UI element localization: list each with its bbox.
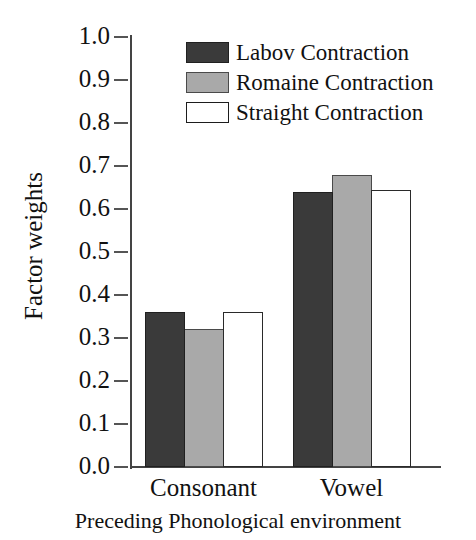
legend-item: Labov Contraction xyxy=(186,38,456,66)
y-axis-tick-label: 0.4 xyxy=(34,281,110,306)
y-axis-tick xyxy=(114,466,128,468)
y-axis-tick-label: 0.0 xyxy=(34,453,110,478)
y-axis-tick xyxy=(114,423,128,425)
y-axis-tick-label: 1.0 xyxy=(34,23,110,48)
y-axis-tick-label: 0.8 xyxy=(34,109,110,134)
legend-swatch-icon xyxy=(186,42,229,63)
y-axis-tick-label: 0.2 xyxy=(34,367,110,392)
y-axis-tick xyxy=(114,251,128,253)
y-axis-tick xyxy=(114,79,128,81)
y-axis-tick xyxy=(114,337,128,339)
bar-consonant-series2 xyxy=(223,312,263,467)
x-axis-label-vowel: Vowel xyxy=(252,474,452,502)
y-axis-tick-label: 0.1 xyxy=(34,410,110,435)
y-axis-tick-label: 0.3 xyxy=(34,324,110,349)
bar-chart-figure: Factor weights 1.00.90.80.70.60.50.40.30… xyxy=(0,0,476,540)
y-axis-tick-label: 0.7 xyxy=(34,152,110,177)
y-axis-tick xyxy=(114,380,128,382)
legend-label: Romaine Contraction xyxy=(236,71,433,94)
legend-item: Straight Contraction xyxy=(186,98,456,126)
legend-swatch-icon xyxy=(186,72,229,93)
legend-label: Labov Contraction xyxy=(236,41,409,64)
bar-consonant-series1 xyxy=(184,329,224,467)
y-axis-tick xyxy=(114,294,128,296)
y-axis-tick xyxy=(114,208,128,210)
bar-vowel-series0 xyxy=(293,192,333,467)
y-axis-tick xyxy=(114,36,128,38)
legend-item: Romaine Contraction xyxy=(186,68,456,96)
y-axis-tick xyxy=(114,122,128,124)
x-axis-title: Preceding Phonological environment xyxy=(0,508,476,534)
legend-label: Straight Contraction xyxy=(236,101,423,124)
bar-vowel-series1 xyxy=(332,175,372,467)
chart-legend: Labov ContractionRomaine ContractionStra… xyxy=(186,38,456,128)
legend-swatch-icon xyxy=(186,102,229,123)
y-axis-tick-label: 0.6 xyxy=(34,195,110,220)
bar-vowel-series2 xyxy=(371,190,411,467)
y-axis-tick xyxy=(114,165,128,167)
bar-consonant-series0 xyxy=(145,312,185,467)
y-axis-tick-label: 0.9 xyxy=(34,66,110,91)
y-axis-tick-label: 0.5 xyxy=(34,238,110,263)
